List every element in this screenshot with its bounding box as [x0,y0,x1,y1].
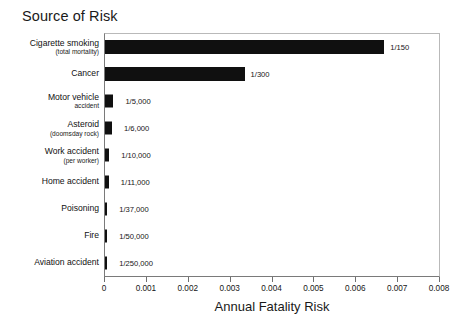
x-tick-label: 0.002 [178,284,199,293]
category-label: Asteroid(doomsday rock) [0,119,99,136]
x-axis-title: Annual Fatality Risk [104,299,440,314]
category-label-main: Asteroid [0,119,99,129]
bar-row: Poisoning1/37,000 [0,196,460,223]
bar [105,176,109,189]
category-label-main: Cancer [0,69,99,79]
bar-value-label: 1/5,000 [125,96,150,105]
x-tick-mark [104,277,105,282]
category-label: Fire [0,232,99,242]
bar-row: Cancer1/300 [0,60,460,87]
bar-row: Aviation accident1/250,000 [0,250,460,277]
bar-value-label: 1/50,000 [119,232,149,241]
x-tick-label: 0.008 [429,284,450,293]
x-tick-mark [439,277,440,282]
x-tick-label: 0 [102,284,107,293]
bar [105,67,245,81]
x-tick-mark [355,277,356,282]
bar [105,121,112,134]
x-tick-label: 0.003 [219,284,240,293]
x-tick-mark [397,277,398,282]
x-tick-mark [146,277,147,282]
category-label-sub: accident [0,102,99,109]
x-tick-mark [313,277,314,282]
category-label-main: Poisoning [0,204,99,214]
bar-row: Home accident1/11,000 [0,169,460,196]
category-label-sub: (total mortality) [0,48,99,55]
bar-value-label: 1/300 [251,69,270,78]
x-tick-label: 0.006 [345,284,366,293]
bar-chart: Source of Risk Cigarette smoking(total m… [0,0,460,321]
x-tick-mark [230,277,231,282]
bar-value-label: 1/250,000 [119,259,153,268]
bar-row: Work accident(per worker)1/10,000 [0,142,460,169]
category-label: Cancer [0,69,99,79]
bar-row: Asteroid(doomsday rock)1/6,000 [0,114,460,141]
category-label-main: Motor vehicle [0,92,99,102]
x-tick-label: 0.004 [261,284,282,293]
category-label: Aviation accident [0,259,99,269]
chart-title: Source of Risk [22,8,118,24]
bar-value-label: 1/6,000 [124,123,149,132]
category-label-main: Cigarette smoking [0,38,99,48]
bar [105,40,384,54]
bar-row: Motor vehicleaccident1/5,000 [0,87,460,114]
x-tick-mark [188,277,189,282]
bar [105,203,107,216]
bar-value-label: 1/11,000 [121,178,150,187]
category-label-main: Aviation accident [0,259,99,269]
bar-row: Fire1/50,000 [0,223,460,250]
x-tick-mark [272,277,273,282]
category-label: Motor vehicleaccident [0,92,99,109]
category-label: Home accident [0,177,99,187]
bar [105,149,109,162]
category-label: Work accident(per worker) [0,147,99,164]
x-tick-label: 0.001 [136,284,157,293]
x-tick-label: 0.005 [303,284,324,293]
x-tick-label: 0.007 [387,284,408,293]
category-label-main: Work accident [0,147,99,157]
category-label-sub: (per worker) [0,156,99,163]
bar [105,94,113,107]
category-label-main: Home accident [0,177,99,187]
category-label: Poisoning [0,204,99,214]
category-label-main: Fire [0,232,99,242]
bar-value-label: 1/37,000 [119,205,149,214]
bar-row: Cigarette smoking(total mortality)1/150 [0,33,460,60]
category-label: Cigarette smoking(total mortality) [0,38,99,55]
bar [105,257,107,270]
bar-value-label: 1/10,000 [121,151,151,160]
bar-value-label: 1/150 [390,42,409,51]
bar [105,230,107,243]
category-label-sub: (doomsday rock) [0,129,99,136]
x-axis-ticks: 00.0010.0020.0030.0040.0050.0060.0070.00… [104,277,440,283]
